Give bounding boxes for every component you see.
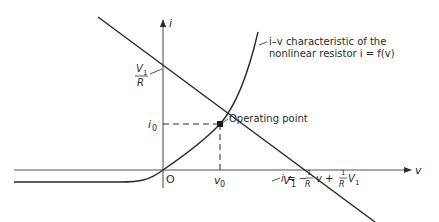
- origin-label: O: [166, 173, 175, 186]
- operating-point-label: Operating point: [229, 113, 308, 124]
- v1-over-r-leader: [150, 69, 162, 74]
- svg-text:i: i: [148, 118, 151, 131]
- y-axis-label: i: [169, 17, 172, 30]
- x-axis-label: v: [415, 164, 422, 177]
- i0-label: i 0: [148, 118, 157, 133]
- svg-text:R: R: [137, 77, 144, 88]
- svg-text:R: R: [305, 180, 311, 189]
- v0-label: v 0: [214, 174, 225, 189]
- curve-annotation-line2: nonlinear resistor i = f(v): [269, 48, 395, 59]
- diagram-canvas: i v O V 1 R i 0 v 0 V 1 i–v characterist…: [0, 0, 439, 222]
- svg-text:1: 1: [341, 169, 345, 177]
- svg-text:0: 0: [152, 124, 157, 133]
- svg-text:v +: v +: [316, 173, 333, 184]
- y-intercept-label: V 1 R: [135, 63, 148, 88]
- svg-text:1: 1: [355, 179, 359, 187]
- load-line-eq-leader: [272, 178, 280, 181]
- curve-annotation-line1: i–v characteristic of the: [269, 36, 386, 47]
- curve-label-leader: [259, 42, 267, 45]
- operating-point-marker: [217, 121, 223, 127]
- svg-text:R: R: [339, 180, 345, 189]
- svg-text:1: 1: [307, 169, 311, 177]
- iv-characteristic-curve: [120, 32, 258, 182]
- svg-text:i = −: i = −: [281, 173, 307, 184]
- svg-text:0: 0: [220, 180, 225, 189]
